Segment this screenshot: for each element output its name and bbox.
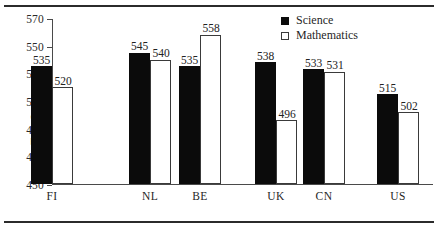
legend-swatch-science-icon [281,17,289,25]
y-axis-tick [47,185,52,186]
bar-value-label: 520 [55,76,72,88]
chart-legend: Science Mathematics [281,13,358,43]
bar-cn-mathematics: 531 [324,72,345,184]
bar-fi-mathematics: 520 [52,87,73,184]
bar-us-science: 515 [377,94,398,184]
bar-value-label: 558 [203,23,220,35]
bar-uk-mathematics: 496 [276,120,297,184]
bar-be-science: 535 [179,66,200,184]
plot-area: 570550530510490470450 535520545540535558… [52,19,433,185]
top-divider-rule [4,5,434,7]
legend-label-mathematics: Mathematics [296,28,358,43]
bar-nl-science: 545 [129,53,150,184]
bar-cn-science: 533 [303,69,324,184]
bar-value-label: 535 [181,55,198,67]
bar-us-mathematics: 502 [398,112,419,184]
x-axis-label-be: BE [192,190,208,202]
legend-item-mathematics: Mathematics [281,28,358,43]
bar-fi-science: 535 [31,66,52,184]
bar-value-label: 533 [305,58,322,70]
bar-nl-mathematics: 540 [150,60,171,185]
x-axis-label-fi: FI [46,190,57,202]
bottom-divider-rule [4,221,434,223]
legend-label-science: Science [296,13,333,28]
bar-value-label: 545 [131,41,148,53]
bar-value-label: 502 [401,101,418,113]
bar-uk-science: 538 [255,62,276,184]
x-axis-label-us: US [390,190,406,202]
legend-swatch-mathematics-icon [281,32,289,40]
x-axis-label-nl: NL [142,190,158,202]
bar-value-label: 496 [279,109,296,121]
bar-value-label: 538 [257,51,274,63]
x-axis-label-uk: UK [267,190,284,202]
bars-layer: 535520545540535558538496533531515502 [52,19,433,185]
legend-item-science: Science [281,13,358,28]
bar-value-label: 515 [379,83,396,95]
bar-be-mathematics: 558 [200,35,221,184]
y-axis-tick-label: 550 [26,41,44,53]
x-axis-label-cn: CN [316,190,333,202]
bar-chart-figure: Test Scores 570550530510490470450 535520… [0,0,438,232]
y-axis-tick-label: 570 [26,13,44,25]
bar-value-label: 531 [327,60,344,72]
bar-value-label: 540 [153,48,170,60]
bar-value-label: 535 [33,55,50,67]
